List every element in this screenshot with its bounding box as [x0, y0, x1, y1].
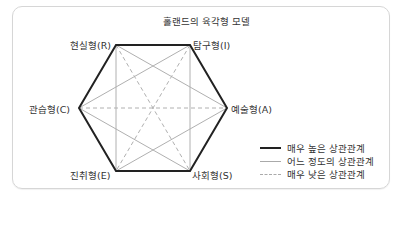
- node-label-conventional: 관습형(C): [29, 102, 70, 116]
- legend-item-very-high: 매우 높은 상관관계: [260, 142, 365, 154]
- legend-swatch-dashed: [260, 174, 281, 175]
- edge-A-E: [116, 108, 227, 171]
- edge-C-S: [79, 108, 190, 171]
- legend-label: 매우 낮은 상관관계: [287, 167, 365, 181]
- node-label-investigative: 탐구형(I): [193, 38, 230, 52]
- legend-label: 매우 높은 상관관계: [287, 141, 365, 155]
- legend-label: 어느 정도의 상관관계: [287, 154, 374, 168]
- node-label-realistic: 현실형(R): [70, 38, 111, 52]
- legend-swatch-solid-thin: [260, 161, 281, 162]
- node-label-enterprising: 진취형(E): [70, 168, 110, 182]
- very-low-edges: [79, 45, 227, 171]
- legend-swatch-solid-thick: [260, 147, 281, 149]
- legend-item-moderate: 어느 정도의 상관관계: [260, 155, 374, 167]
- node-label-artistic: 예술형(A): [231, 102, 272, 116]
- node-label-social: 사회형(S): [192, 168, 232, 182]
- legend-item-very-low: 매우 낮은 상관관계: [260, 168, 365, 180]
